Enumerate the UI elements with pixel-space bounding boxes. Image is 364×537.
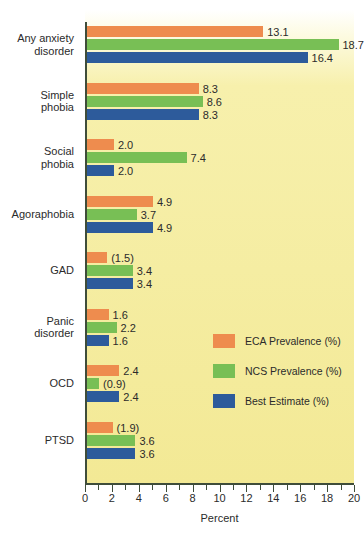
bar-value-best-2: 2.0 (118, 166, 133, 177)
anxiety-prevalence-bar-chart: 02468101214161820 Percent Any anxiety di… (0, 0, 364, 537)
category-label-3: Agoraphobia (0, 208, 74, 221)
bar-value-best-1: 8.3 (203, 110, 218, 121)
bar-value-eca-3: 4.9 (157, 197, 172, 208)
bar-ncs-1 (87, 96, 203, 107)
x-tick-12 (246, 485, 247, 492)
bar-value-ncs-6: (0.9) (103, 379, 126, 390)
x-tick-18 (327, 485, 328, 492)
x-tick-4 (139, 485, 140, 492)
bar-value-eca-5: 1.6 (113, 310, 128, 321)
x-tick-label-0: 0 (74, 492, 96, 504)
x-tick-label-8: 8 (182, 492, 204, 504)
plot-background (85, 10, 354, 483)
x-tick-label-6: 6 (155, 492, 177, 504)
bar-ncs-7 (87, 435, 135, 446)
bar-best-3 (87, 222, 153, 233)
x-tick-11 (233, 485, 234, 490)
legend-swatch-best-icon (213, 394, 235, 408)
x-tick-17 (314, 485, 315, 490)
bar-best-0 (87, 52, 308, 63)
category-label-0: Any anxiety disorder (0, 32, 74, 57)
bar-ncs-6 (87, 378, 99, 389)
legend-label-ncs: NCS Prevalence (%) (245, 364, 342, 378)
x-tick-label-16: 16 (289, 492, 311, 504)
bar-value-eca-2: 2.0 (118, 140, 133, 151)
bar-best-7 (87, 448, 135, 459)
x-tick-label-4: 4 (128, 492, 150, 504)
x-tick-20 (354, 485, 355, 492)
category-label-7: PTSD (0, 434, 74, 447)
bar-eca-2 (87, 139, 114, 150)
category-label-1: Simple phobia (0, 89, 74, 114)
x-tick-label-10: 10 (209, 492, 231, 504)
bar-value-ncs-3: 3.7 (141, 210, 156, 221)
bar-eca-3 (87, 196, 153, 207)
bar-value-ncs-7: 3.6 (139, 436, 154, 447)
bar-ncs-0 (87, 39, 339, 50)
x-tick-13 (260, 485, 261, 490)
legend-swatch-ncs-icon (213, 364, 235, 378)
bar-best-6 (87, 391, 119, 402)
x-tick-2 (112, 485, 113, 492)
x-tick-19 (341, 485, 342, 490)
bar-value-ncs-2: 7.4 (191, 153, 206, 164)
bar-value-eca-7: (1.9) (117, 423, 140, 434)
bar-best-1 (87, 109, 199, 120)
bar-value-best-4: 3.4 (137, 279, 152, 290)
bar-value-eca-6: 2.4 (123, 366, 138, 377)
legend-swatch-eca-icon (213, 334, 235, 348)
bar-value-eca-0: 13.1 (267, 27, 288, 38)
bar-value-eca-1: 8.3 (203, 84, 218, 95)
bar-value-ncs-5: 2.2 (121, 323, 136, 334)
bar-value-best-0: 16.4 (312, 53, 333, 64)
bar-value-eca-4: (1.5) (111, 253, 134, 264)
bar-value-best-6: 2.4 (123, 392, 138, 403)
bar-value-ncs-4: 3.4 (137, 266, 152, 277)
bar-value-ncs-0: 18.7 (343, 40, 364, 51)
category-label-6: OCD (0, 377, 74, 390)
x-tick-8 (193, 485, 194, 492)
x-tick-16 (300, 485, 301, 492)
bar-best-2 (87, 165, 114, 176)
bar-value-best-7: 3.6 (139, 449, 154, 460)
legend-label-eca: ECA Prevalence (%) (245, 334, 341, 348)
category-label-4: GAD (0, 264, 74, 277)
x-tick-label-18: 18 (316, 492, 338, 504)
x-tick-15 (287, 485, 288, 490)
bar-value-best-3: 4.9 (157, 223, 172, 234)
x-tick-3 (125, 485, 126, 490)
x-tick-7 (179, 485, 180, 490)
x-tick-14 (273, 485, 274, 492)
bar-best-4 (87, 278, 133, 289)
bar-value-best-5: 1.6 (113, 336, 128, 347)
bar-eca-0 (87, 26, 263, 37)
bar-eca-7 (87, 422, 113, 433)
x-tick-label-20: 20 (343, 492, 364, 504)
x-tick-1 (98, 485, 99, 490)
bar-ncs-2 (87, 152, 187, 163)
x-tick-5 (152, 485, 153, 490)
x-axis-title: Percent (85, 512, 354, 524)
x-tick-10 (220, 485, 221, 492)
x-tick-label-2: 2 (101, 492, 123, 504)
category-label-5: Panic disorder (0, 315, 74, 340)
bar-ncs-4 (87, 265, 133, 276)
bar-ncs-3 (87, 209, 137, 220)
bar-eca-6 (87, 365, 119, 376)
legend-label-best: Best Estimate (%) (245, 394, 329, 408)
bar-eca-1 (87, 83, 199, 94)
x-tick-6 (166, 485, 167, 492)
x-tick-9 (206, 485, 207, 490)
bar-eca-4 (87, 252, 107, 263)
bar-ncs-5 (87, 322, 117, 333)
x-tick-label-14: 14 (262, 492, 284, 504)
category-label-2: Social phobia (0, 145, 74, 170)
x-tick-label-12: 12 (235, 492, 257, 504)
bar-value-ncs-1: 8.6 (207, 97, 222, 108)
bar-eca-5 (87, 309, 109, 320)
x-tick-0 (85, 485, 86, 492)
bar-best-5 (87, 335, 109, 346)
